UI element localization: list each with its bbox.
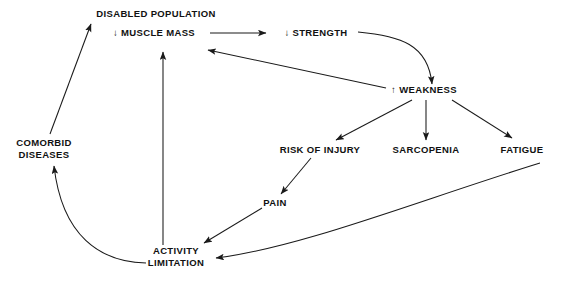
node-label-disabled-population: DISABLED POPULATION <box>96 8 215 19</box>
node-label-weakness: ↑ WEAKNESS <box>391 84 457 95</box>
node-label-comorbid-diseases-line2: DISEASES <box>19 149 70 160</box>
edge-weakness-to-fatigue <box>452 100 512 138</box>
node-label-sarcopenia: SARCOPENIA <box>393 144 460 155</box>
nodes-layer: DISABLED POPULATION↓ MUSCLE MASS↓ STRENG… <box>16 8 543 268</box>
node-label-strength: ↓ STRENGTH <box>284 27 347 38</box>
edge-weakness-to-muscle-mass <box>208 50 386 88</box>
node-label-fatigue: FATIGUE <box>501 144 544 155</box>
edge-fatigue-to-activity-limitation <box>216 163 540 258</box>
node-label-activity-limitation-line1: ACTIVITY <box>153 245 199 256</box>
edge-risk-of-injury-to-pain <box>281 158 311 194</box>
node-label-pain: PAIN <box>263 197 286 208</box>
diagram-canvas: DISABLED POPULATION↓ MUSCLE MASS↓ STRENG… <box>0 0 566 282</box>
edge-weakness-to-risk-of-injury <box>336 100 412 140</box>
node-label-muscle-mass: ↓ MUSCLE MASS <box>113 27 195 38</box>
node-label-risk-of-injury: RISK OF INJURY <box>280 144 361 155</box>
edge-comorbid-diseases-to-disabled-population <box>50 24 91 134</box>
edge-strength-to-weakness <box>358 32 432 84</box>
edge-activity-limitation-to-comorbid-diseases <box>54 166 146 263</box>
edge-pain-to-activity-limitation <box>204 208 262 243</box>
disability-cycle-diagram: DISABLED POPULATION↓ MUSCLE MASS↓ STRENG… <box>0 0 566 282</box>
node-label-comorbid-diseases-line1: COMORBID <box>16 137 72 148</box>
node-label-activity-limitation-line2: LIMITATION <box>148 257 204 268</box>
